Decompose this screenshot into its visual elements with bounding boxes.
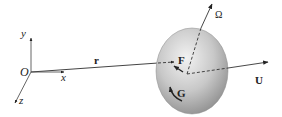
y-axis-label: y <box>20 27 26 39</box>
force-label: F <box>178 54 185 66</box>
x-axis-label: x <box>60 71 66 83</box>
rigid-body <box>156 28 228 114</box>
angular-velocity-arrow <box>201 4 212 28</box>
position-vector-label: r <box>94 54 99 66</box>
rigid-body-diagram: y x z O r Ω U F G <box>0 0 282 117</box>
origin-label: O <box>20 65 29 79</box>
z-axis-label: z <box>18 94 24 106</box>
angular-velocity-label: Ω <box>215 9 222 20</box>
velocity-label: U <box>255 74 263 86</box>
velocity-arrow <box>228 62 268 68</box>
torque-label: G <box>177 87 186 99</box>
